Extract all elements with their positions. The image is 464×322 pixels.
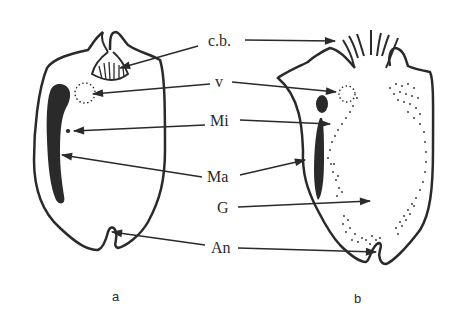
label-vacuole: v [215, 73, 223, 90]
cell-b-outline [278, 48, 433, 264]
macronucleus-a [47, 84, 71, 203]
label-contractile-bundle: c.b. [208, 32, 231, 49]
label-gullet: G [217, 199, 229, 216]
micronucleus-b [316, 95, 328, 113]
vacuole-a [75, 83, 95, 103]
caption-a: a [112, 289, 120, 304]
diagram-canvas: c.b. v Mi Ma G An a b [0, 0, 464, 322]
vacuole-b [339, 86, 355, 102]
micronucleus-a [66, 129, 70, 133]
cell-a [34, 32, 165, 250]
label-anus: An [211, 239, 231, 256]
label-micronucleus: Mi [210, 112, 229, 129]
cell-b [278, 30, 433, 264]
caption-b: b [354, 291, 361, 306]
macronucleus-b [314, 118, 324, 200]
cilia-a [99, 62, 124, 80]
stippling-b [327, 83, 427, 245]
label-macronucleus: Ma [207, 168, 228, 185]
